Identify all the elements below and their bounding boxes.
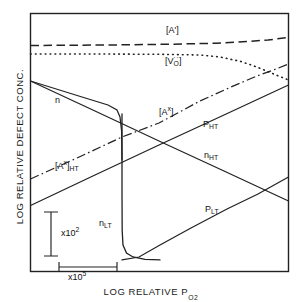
- horizontal-scale-exponent: 5: [83, 270, 87, 277]
- label-a-x-ht: [Ax]HT: [55, 162, 79, 171]
- horizontal-scale-bar: [59, 262, 117, 272]
- x-axis-label-main: LOG RELATIVE P: [104, 286, 189, 297]
- curve-p-ht: [31, 85, 289, 206]
- vertical-scale-bar-label: x102: [61, 228, 79, 238]
- label-n-ht: nHT: [204, 151, 218, 160]
- label-p-ht-sub: HT: [209, 123, 218, 130]
- vertical-scale-bar: [44, 212, 58, 256]
- label-v-o-sub: O: [174, 60, 180, 67]
- label-a-x-open: [A: [159, 107, 168, 117]
- label-a-prime: [A']: [166, 26, 179, 35]
- label-a-x: [Ax]: [159, 108, 173, 117]
- label-n-lt-sub: LT: [104, 222, 112, 229]
- label-v-o-vacancy: [V··O]: [165, 57, 182, 66]
- label-n-lt: nLT: [99, 219, 112, 228]
- label-n: n: [55, 96, 60, 105]
- vertical-scale-exponent: 2: [76, 226, 80, 233]
- label-v-o-open: [V: [165, 56, 174, 66]
- label-a-x-sup: x: [168, 105, 171, 112]
- label-n-ht-sub: HT: [209, 154, 218, 161]
- label-a-x-close: ]: [171, 107, 174, 117]
- horizontal-scale-bar-label: x105: [68, 272, 86, 282]
- curve-v-o-dotted: [31, 54, 289, 80]
- brouwer-diagram-figure: LOG RELATIVE DEFECT CONC. LOG RELATIVE P…: [0, 0, 302, 302]
- defect-concentration-plot: [0, 0, 302, 302]
- label-p-lt: PLT: [205, 205, 219, 214]
- label-p-ht: PHT: [203, 120, 218, 129]
- y-axis-label: LOG RELATIVE DEFECT CONC.: [14, 57, 25, 237]
- label-a-x-ht-open: [A: [55, 161, 64, 171]
- vertical-scale-mantissa: x10: [61, 228, 76, 238]
- horizontal-scale-mantissa: x10: [68, 272, 83, 282]
- x-axis-label-sub: O2: [188, 294, 198, 301]
- curve-n-lt: [122, 114, 160, 260]
- label-v-o-core: ··O: [174, 57, 180, 66]
- x-axis-label: LOG RELATIVE PO2: [0, 286, 302, 299]
- label-a-x-ht-sup: x: [64, 159, 67, 166]
- curve-n: [31, 81, 123, 160]
- label-v-o-close: ]: [179, 56, 182, 66]
- curve-a-prime-dashed: [31, 38, 289, 46]
- label-a-x-ht-sub: HT: [69, 165, 78, 172]
- label-p-lt-sub: LT: [211, 208, 219, 215]
- curve-n-ht: [31, 81, 289, 201]
